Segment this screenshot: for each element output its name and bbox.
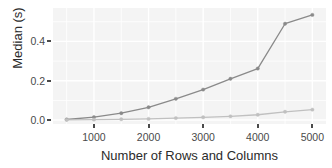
- data-point: [147, 117, 150, 120]
- data-point: [174, 97, 177, 100]
- x-tick-label: 1000: [74, 132, 114, 143]
- chart-container: Median (s) 0.00.20.4 Number of Rows and …: [0, 0, 332, 168]
- y-tick-label: 0.2: [19, 76, 45, 86]
- x-tick-label: 3000: [183, 132, 223, 143]
- y-tick-mark: [47, 119, 51, 121]
- data-point: [201, 88, 204, 91]
- y-tick-label: 0.4: [19, 36, 45, 46]
- data-point: [283, 110, 286, 113]
- data-point: [283, 22, 286, 25]
- data-point: [229, 115, 232, 118]
- series-line-lower-series: [67, 110, 313, 120]
- x-tick-mark: [311, 124, 313, 128]
- x-tick-label: 2000: [129, 132, 169, 143]
- data-point: [65, 118, 68, 121]
- data-point: [120, 118, 123, 121]
- data-point: [120, 111, 123, 114]
- x-axis-title: Number of Rows and Columns: [53, 148, 326, 163]
- plot-panel: [53, 8, 326, 124]
- data-point: [256, 67, 259, 70]
- data-point: [174, 116, 177, 119]
- data-point: [256, 113, 259, 116]
- x-tick-mark: [93, 124, 95, 128]
- data-point: [229, 77, 232, 80]
- data-point: [147, 106, 150, 109]
- data-point: [92, 118, 95, 121]
- y-axis-tick-labels: 0.00.20.4: [15, 0, 45, 140]
- plot-svg: [53, 8, 326, 124]
- series-line-upper-series: [67, 15, 313, 120]
- data-point: [201, 116, 204, 119]
- x-tick-mark: [202, 124, 204, 128]
- x-tick-label: 4000: [238, 132, 278, 143]
- x-tick-mark: [257, 124, 259, 128]
- y-tick-label: 0.0: [19, 115, 45, 125]
- data-point: [311, 108, 314, 111]
- y-tick-mark: [47, 40, 51, 42]
- x-tick-label: 5000: [292, 132, 332, 143]
- y-tick-mark: [47, 80, 51, 82]
- x-tick-mark: [148, 124, 150, 128]
- data-point: [311, 13, 314, 16]
